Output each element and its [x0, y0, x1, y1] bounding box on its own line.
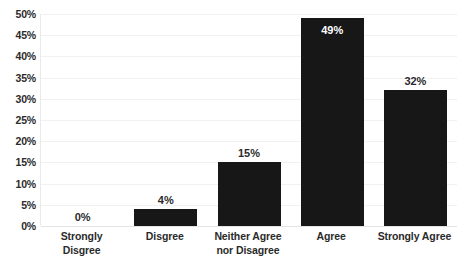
x-tick-label: Agree	[284, 230, 379, 244]
bar-value-label: 49%	[321, 24, 343, 36]
bar-slot: 32%	[384, 14, 447, 226]
bar-value-label: 32%	[404, 75, 426, 87]
y-tick-label: 50%	[0, 9, 36, 20]
x-tick-label-line: Agree	[284, 230, 379, 244]
y-tick-label: 35%	[0, 72, 36, 83]
bar-slot: 49%	[301, 14, 364, 226]
x-tick-label: Strongly Agree	[367, 230, 462, 244]
bar[interactable]	[218, 162, 281, 226]
axis-baseline	[41, 226, 457, 227]
x-tick-label: StronglyDisgree	[34, 230, 129, 257]
bar-value-label: 15%	[238, 147, 260, 159]
bar-chart: 0%5%10%15%20%25%30%35%40%45%50% 0%4%15%4…	[0, 0, 464, 277]
bar-value-label: 0%	[75, 211, 91, 223]
y-tick-label: 0%	[0, 221, 36, 232]
x-axis: StronglyDisgreeDisgreeNeither Agreenor D…	[40, 230, 456, 276]
bar[interactable]	[384, 90, 447, 226]
y-tick-label: 40%	[0, 51, 36, 62]
plot-area: 0%4%15%49%32%	[40, 14, 457, 226]
bar-slot: 4%	[134, 14, 197, 226]
x-tick-label: Neither Agreenor Disagree	[200, 230, 295, 257]
x-tick-label-line: Strongly Agree	[367, 230, 462, 244]
y-axis: 0%5%10%15%20%25%30%35%40%45%50%	[0, 0, 36, 277]
y-tick-label: 45%	[0, 30, 36, 41]
x-tick-label: Disgree	[117, 230, 212, 244]
bar[interactable]	[134, 209, 197, 226]
y-tick-label: 15%	[0, 157, 36, 168]
y-tick-label: 25%	[0, 115, 36, 126]
bar-value-label: 4%	[158, 194, 174, 206]
x-tick-label-line: Disgree	[34, 244, 129, 258]
bar[interactable]	[301, 18, 364, 226]
x-tick-label-line: Neither Agree	[200, 230, 295, 244]
y-tick-label: 20%	[0, 136, 36, 147]
bars-layer: 0%4%15%49%32%	[41, 14, 457, 226]
x-tick-label-line: nor Disagree	[200, 244, 295, 258]
bar-slot: 0%	[51, 14, 114, 226]
y-tick-label: 30%	[0, 93, 36, 104]
bar-slot: 15%	[218, 14, 281, 226]
y-tick-label: 10%	[0, 178, 36, 189]
x-tick-label-line: Strongly	[34, 230, 129, 244]
x-tick-label-line: Disgree	[117, 230, 212, 244]
y-tick-label: 5%	[0, 199, 36, 210]
